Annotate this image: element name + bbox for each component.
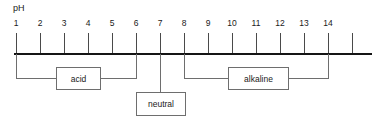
ph-axis-line — [14, 53, 372, 55]
tick-mark-10 — [232, 33, 233, 54]
alkaline-bracket-right-leg — [328, 54, 329, 78]
alkaline-bracket-left-arm — [184, 78, 229, 79]
ph-scale-diagram: pH 1 2 3 4 5 6 7 8 9 10 11 12 13 14 acid… — [0, 0, 375, 121]
tick-label-2: 2 — [32, 18, 48, 29]
tick-label-3: 3 — [56, 18, 72, 29]
tick-mark-4 — [88, 33, 89, 54]
tick-mark-9 — [208, 33, 209, 54]
region-label-acid-text: acid — [71, 74, 87, 84]
tick-label-8: 8 — [176, 18, 192, 29]
tick-label-13: 13 — [296, 18, 312, 29]
tick-mark-5 — [112, 33, 113, 54]
ph-axis-label: pH — [13, 2, 25, 14]
tick-label-4: 4 — [80, 18, 96, 29]
tick-label-5: 5 — [104, 18, 120, 29]
tick-mark-14 — [328, 33, 329, 54]
acid-bracket-left-arm — [16, 78, 56, 79]
tick-label-14: 14 — [320, 18, 336, 29]
alkaline-bracket-left-leg — [184, 54, 185, 78]
tick-mark-13 — [304, 33, 305, 54]
tick-label-10: 10 — [224, 18, 240, 29]
alkaline-bracket-right-arm — [289, 78, 329, 79]
tick-label-9: 9 — [200, 18, 216, 29]
region-label-alkaline: alkaline — [228, 67, 289, 90]
neutral-stem — [160, 54, 161, 92]
region-label-alkaline-text: alkaline — [244, 74, 273, 84]
region-label-neutral-text: neutral — [148, 99, 174, 109]
tick-mark-1 — [16, 33, 17, 54]
tick-mark-7 — [160, 33, 161, 54]
acid-bracket-right-arm — [101, 78, 137, 79]
acid-bracket-right-leg — [136, 54, 137, 78]
tick-mark-2 — [40, 33, 41, 54]
tick-mark-11 — [256, 33, 257, 54]
tick-label-6: 6 — [128, 18, 144, 29]
tick-mark-3 — [64, 33, 65, 54]
tick-label-7: 7 — [152, 18, 168, 29]
tick-mark-12 — [280, 33, 281, 54]
acid-bracket-left-leg — [16, 54, 17, 78]
region-label-acid: acid — [56, 67, 101, 90]
tick-label-1: 1 — [8, 18, 24, 29]
tick-label-12: 12 — [272, 18, 288, 29]
region-label-neutral: neutral — [136, 92, 186, 116]
tick-label-11: 11 — [248, 18, 264, 29]
tick-mark-8 — [184, 33, 185, 54]
tick-mark-unlabeled — [352, 33, 353, 54]
tick-mark-6 — [136, 33, 137, 54]
